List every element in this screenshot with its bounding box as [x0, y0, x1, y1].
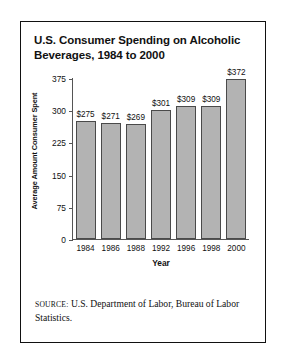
x-tick-label: 1988 — [123, 244, 148, 253]
bar — [126, 124, 146, 239]
x-tick-label: 2000 — [224, 244, 249, 253]
bar-slot: $271 — [101, 78, 121, 239]
y-tick-label: 300 — [34, 106, 66, 116]
x-tick-label: 1986 — [98, 244, 123, 253]
bar-value-label: $372 — [216, 68, 256, 77]
x-tick-label: 1984 — [73, 244, 98, 253]
bar — [201, 106, 221, 239]
bar-series: $275$271$269$301$309$309$372 — [73, 78, 249, 239]
bar — [101, 123, 121, 239]
y-tick-mark — [69, 240, 73, 241]
bar — [226, 79, 246, 239]
y-tick-label: 0 — [34, 235, 66, 245]
x-axis-label: Year — [73, 258, 249, 268]
axes: 375300225150750 $275$271$269$301$309$309… — [72, 78, 249, 240]
bar-slot: $372 — [226, 78, 246, 239]
chart-title: U.S. Consumer Spending on Alcoholic Beve… — [34, 33, 249, 62]
bar-slot: $275 — [76, 78, 96, 239]
bar — [76, 121, 96, 239]
y-tick-label: 75 — [34, 203, 66, 213]
plot-area: Average Amount Consumer Spent 3753002251… — [34, 74, 254, 286]
bar — [151, 110, 171, 239]
bar-value-label: $269 — [116, 113, 156, 122]
x-tick-label: 1996 — [174, 244, 199, 253]
y-tick-label: 225 — [34, 138, 66, 148]
chart-figure: U.S. Consumer Spending on Alcoholic Beve… — [20, 21, 266, 343]
x-tick-label: 1992 — [148, 244, 173, 253]
x-tick-container: 1984198619881992199619982000 — [73, 244, 249, 253]
source-label: SOURCE: — [35, 300, 68, 309]
source-note: SOURCE: U.S. Department of Labor, Bureau… — [35, 298, 245, 324]
bar-slot: $309 — [201, 78, 221, 239]
x-axis-line — [72, 239, 249, 240]
y-tick-label: 150 — [34, 171, 66, 181]
y-tick-label: 375 — [34, 74, 66, 84]
bar — [176, 106, 196, 239]
x-tick-label: 1998 — [199, 244, 224, 253]
bar-value-label: $309 — [191, 95, 231, 104]
